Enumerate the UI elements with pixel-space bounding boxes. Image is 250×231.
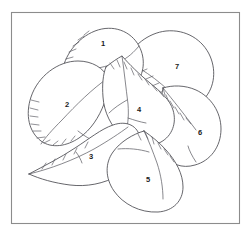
leaf-label-3: 3 (89, 152, 93, 161)
leaf-label-2: 2 (65, 100, 69, 109)
leaf-label-1: 1 (101, 39, 105, 48)
leaf-label-6: 6 (198, 128, 202, 137)
leaf-label-5: 5 (146, 175, 150, 184)
figure-container: 1 2 3 4 5 6 7 (0, 0, 250, 231)
leaf-label-7: 7 (175, 62, 179, 71)
leaf-diagram-svg: 1 2 3 4 5 6 7 (0, 0, 250, 231)
